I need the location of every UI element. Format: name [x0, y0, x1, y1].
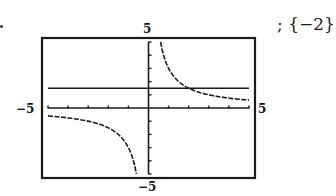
hyperbola-left-branch: [48, 116, 136, 174]
graph-window: [0, 0, 336, 196]
hyperbola-right-branch: [161, 42, 249, 100]
